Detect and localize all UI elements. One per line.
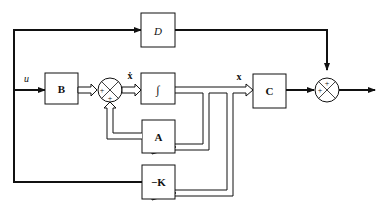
svg-text:D: D xyxy=(153,25,162,37)
state-sum-junction: + + xyxy=(98,78,122,103)
output-sum-junction: + + xyxy=(315,78,339,102)
a-feedback-arrow xyxy=(104,102,142,139)
svg-text:−K: −K xyxy=(151,176,166,188)
input-bus xyxy=(14,30,142,182)
sum-to-integrator-arrow xyxy=(122,84,141,96)
d-output-arrow xyxy=(175,30,327,70)
block-c: C xyxy=(253,74,286,108)
block-b: B xyxy=(45,73,78,104)
block-a: A xyxy=(142,120,175,153)
svg-text:+: + xyxy=(325,79,330,88)
state-label: x xyxy=(237,71,242,82)
block-diagram: u D B + + ẋ ∫ xyxy=(0,0,381,211)
block-integrator: ∫ xyxy=(141,73,175,104)
svg-text:+: + xyxy=(100,86,105,95)
svg-text:+: + xyxy=(318,86,323,95)
b-to-sum-arrow xyxy=(78,84,97,96)
svg-text:∫: ∫ xyxy=(155,83,160,97)
block-d: D xyxy=(141,13,175,47)
svg-text:A: A xyxy=(155,131,163,143)
svg-text:B: B xyxy=(58,83,66,95)
svg-text:C: C xyxy=(266,85,274,97)
input-label: u xyxy=(24,73,29,84)
xdot-label: ẋ xyxy=(128,70,133,81)
block-k: −K xyxy=(142,165,175,199)
